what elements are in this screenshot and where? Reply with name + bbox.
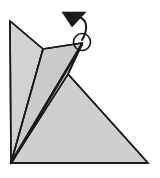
left-vertical-edge — [10, 21, 11, 163]
origami-diagram: Origami step: rotate the marked point an… — [0, 0, 160, 178]
origami-figure — [0, 0, 160, 178]
